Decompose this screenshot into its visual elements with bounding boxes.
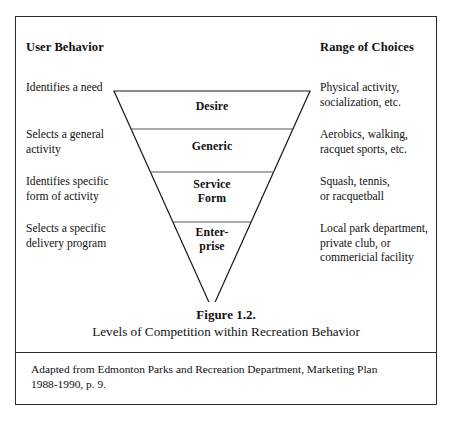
range-of-choices-row-4: Local park department, private club, or … — [320, 222, 448, 266]
range-of-choices-row-3: Squash, tennis, or racquetball — [320, 175, 448, 204]
range-of-choices-row-2-line-2: racquet sports, etc. — [320, 143, 448, 158]
pyramid-tier-label-service-form-line-1: Service — [102, 177, 322, 191]
pyramid-tier-label-desire: Desire — [102, 99, 322, 113]
range-of-choices-row-2-line-1: Aerobics, walking, — [320, 128, 448, 143]
pyramid-tier-label-enterprise: Enter- prise — [102, 225, 322, 253]
figure-root: User Behavior Range of Choices Identifie… — [0, 0, 453, 426]
source-note-line-1: Adapted from Edmonton Parks and Recreati… — [31, 362, 426, 377]
range-of-choices-row-2: Aerobics, walking, racquet sports, etc. — [320, 128, 448, 157]
pyramid-tier-label-service-form: Service Form — [102, 177, 322, 205]
figure-caption-subtitle: Levels of Competition within Recreation … — [16, 323, 436, 341]
column-heading-range-of-choices: Range of Choices — [320, 40, 414, 55]
range-of-choices-row-3-line-1: Squash, tennis, — [320, 175, 448, 190]
pyramid-tier-label-enterprise-line-2: prise — [102, 239, 322, 253]
source-note-divider — [16, 352, 437, 353]
figure-caption-title: Figure 1.2. — [16, 306, 436, 323]
pyramid-tier-label-generic: Generic — [102, 139, 322, 153]
figure-caption: Figure 1.2. Levels of Competition within… — [16, 306, 436, 341]
range-of-choices-row-1-line-1: Physical activity, — [320, 81, 448, 96]
range-of-choices-row-1: Physical activity, socialization, etc. — [320, 81, 448, 110]
pyramid-tier-label-enterprise-line-1: Enter- — [102, 225, 322, 239]
inverted-pyramid-diagram: Desire Generic Service Form Enter- prise — [102, 67, 322, 302]
range-of-choices-row-4-line-3: commericial facility — [320, 251, 448, 266]
range-of-choices-row-3-line-2: or racquetball — [320, 190, 448, 205]
source-note-line-2: 1988-1990, p. 9. — [31, 377, 426, 392]
figure-body: User Behavior Range of Choices Identifie… — [16, 17, 436, 353]
range-of-choices-row-4-line-2: private club, or — [320, 237, 448, 252]
range-of-choices-row-1-line-2: socialization, etc. — [320, 96, 448, 111]
source-note: Adapted from Edmonton Parks and Recreati… — [31, 362, 426, 392]
range-of-choices-row-4-line-1: Local park department, — [320, 222, 448, 237]
pyramid-tier-label-service-form-line-2: Form — [102, 191, 322, 205]
column-heading-user-behavior: User Behavior — [26, 40, 104, 55]
